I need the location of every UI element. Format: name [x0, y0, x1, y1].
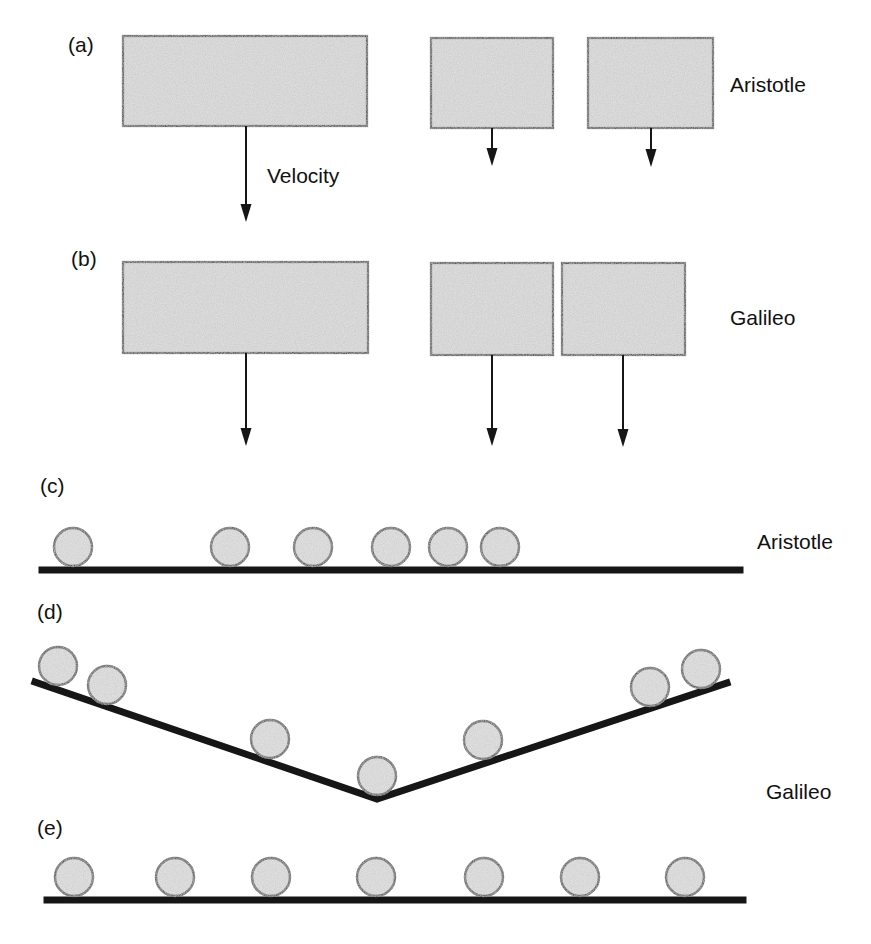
ball [252, 858, 290, 896]
ball [372, 528, 410, 566]
ball [156, 858, 194, 896]
mass-box [562, 263, 685, 355]
thinker-label-galileo-b: Galileo [730, 306, 795, 329]
velocity-arrow-head [646, 149, 657, 167]
ball [39, 647, 77, 685]
section-b-mass-boxes [123, 262, 685, 355]
mass-box [123, 262, 368, 353]
ball [631, 668, 669, 706]
ball [358, 757, 396, 795]
velocity-arrow-label: Velocity [267, 164, 340, 187]
thinker-label-aristotle-a: Aristotle [730, 73, 806, 96]
ball [251, 720, 289, 758]
section-label-d: (d) [37, 600, 63, 623]
velocity-arrow-head [241, 204, 252, 222]
section-a-mass-boxes [123, 36, 713, 128]
physics-figure-canvas: (a) Velocity Aristotle (b) Galileo (c) A… [0, 0, 871, 944]
ball [465, 858, 503, 896]
mass-box [431, 263, 553, 355]
section-label-e: (e) [37, 816, 63, 839]
ball [211, 528, 249, 566]
ball [54, 528, 92, 566]
section-e: (e) [37, 816, 743, 900]
velocity-arrow-head [618, 429, 629, 447]
section-c-balls [54, 528, 519, 566]
section-label-b: (b) [71, 247, 97, 270]
velocity-arrow-head [241, 428, 252, 446]
mass-box [123, 36, 367, 126]
mass-box [431, 38, 553, 128]
ball [682, 650, 720, 688]
velocity-arrow-head [487, 148, 498, 166]
section-d: (d) Galileo [35, 600, 831, 803]
ball [561, 858, 599, 896]
figure-page: (a) Velocity Aristotle (b) Galileo (c) A… [0, 0, 871, 944]
ball [481, 528, 519, 566]
thinker-label-galileo-d: Galileo [766, 780, 831, 803]
section-label-a: (a) [68, 33, 94, 56]
ball [294, 528, 332, 566]
ball [88, 666, 126, 704]
mass-box [588, 38, 713, 128]
ball [464, 721, 502, 759]
section-c: (c) Aristotle [40, 474, 833, 570]
section-b-velocity-arrows [241, 353, 629, 447]
section-e-balls [55, 858, 704, 896]
ball [666, 858, 704, 896]
section-a: (a) Velocity Aristotle [68, 33, 806, 222]
section-b: (b) Galileo [71, 247, 795, 447]
ball [357, 858, 395, 896]
velocity-arrow-head [487, 428, 498, 446]
ball [55, 858, 93, 896]
thinker-label-aristotle-c: Aristotle [757, 530, 833, 553]
ball [429, 528, 467, 566]
section-label-c: (c) [40, 474, 65, 497]
